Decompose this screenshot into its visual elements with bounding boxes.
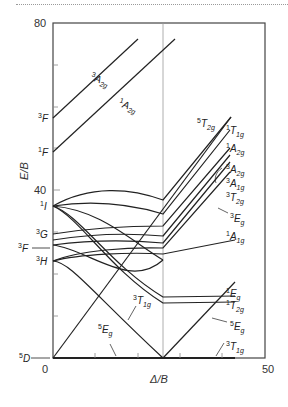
label-5T2g: 5T2g (197, 117, 215, 132)
term-3F: 3F (18, 242, 29, 254)
term-3F-upper: 3F (38, 112, 49, 124)
arrow-3T1g-mid (128, 306, 136, 320)
label-3A1g: 3A1g (226, 177, 244, 192)
y-tick-40: 40 (34, 184, 46, 196)
x-tick-50: 50 (262, 363, 274, 375)
term-1F: 1F (38, 146, 49, 158)
y-axis-label: E/B (18, 162, 30, 180)
curve-5T2g (53, 117, 231, 358)
label-3A2g-right: 3A2g (226, 163, 244, 178)
term-5D: 5D (19, 352, 30, 364)
term-3H: 3H (36, 255, 48, 267)
arrow-3Eg (218, 208, 228, 213)
curve-1A2g (53, 39, 175, 152)
label-3T2g: 3T2g (226, 191, 244, 206)
label-5Eg-right: 5Eg (230, 320, 245, 335)
y-ticks (53, 65, 60, 316)
curve-3T1g-a (53, 261, 163, 358)
tanabe-sugano-diagram: 80 40 0 50 Δ/B E/B 5D (0, 0, 288, 407)
x-tick-0: 0 (42, 363, 48, 375)
term-1I: 1I (40, 200, 47, 212)
label-3A2g: 3A2g (88, 70, 110, 90)
arrow-3T1g-right (216, 343, 224, 356)
arrow-5Eg-right (212, 318, 227, 322)
y-tick-80: 80 (34, 17, 46, 29)
curve-5Eg (163, 282, 235, 358)
energy-curves (53, 39, 235, 358)
arrow-5Eg-mid (110, 344, 116, 356)
label-1A2g: 1A2g (116, 96, 138, 116)
label-1A1g: 1A1g (226, 230, 244, 245)
curve-1T2g (53, 206, 235, 303)
label-5Eg-mid: 5Eg (98, 323, 113, 338)
curve-1Eg (53, 206, 235, 297)
term-3G: 3G (36, 228, 48, 240)
label-3T1g-right: 3T1g (226, 340, 244, 355)
curve-3A2g-b (53, 148, 230, 234)
x-axis-label: Δ/B (149, 373, 168, 385)
label-1T2g: 1T2g (226, 299, 244, 314)
label-3Eg: 3Eg (230, 212, 245, 227)
curve-3Eg (53, 172, 230, 261)
curve-1A1g (53, 240, 235, 261)
